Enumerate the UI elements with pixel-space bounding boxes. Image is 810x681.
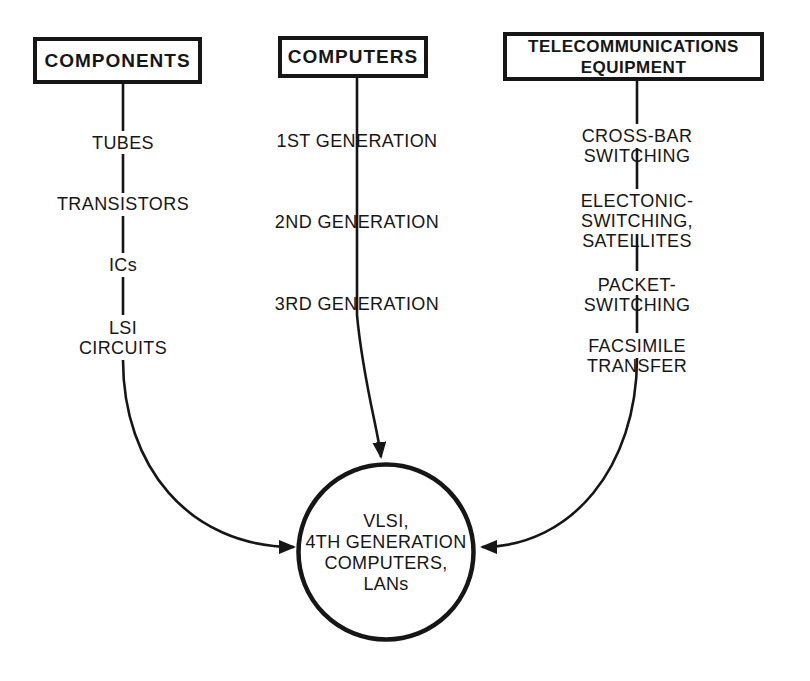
components-header-label: COMPONENTS — [44, 50, 190, 72]
item-tubes: TUBES — [92, 133, 154, 153]
telecom-header-label: TELECOMMUNICATIONS EQUIPMENT — [528, 36, 739, 78]
item-2nd-generation: 2ND GENERATION — [275, 212, 439, 232]
technology-convergence-diagram: COMPONENTS COMPUTERS TELECOMMUNICATIONS … — [0, 0, 810, 681]
telecom-arrow — [482, 358, 637, 547]
item-1st-generation: 1ST GENERATION — [277, 131, 438, 151]
item-3rd-generation: 3RD GENERATION — [275, 294, 439, 314]
telecom-header-box: TELECOMMUNICATIONS EQUIPMENT — [503, 32, 764, 81]
item-cross-bar-switching: CROSS-BAR SWITCHING — [551, 126, 724, 166]
item-ics: ICs — [109, 255, 137, 275]
computers-header-box: COMPUTERS — [278, 36, 428, 78]
item-lsi-circuits: LSI CIRCUITS — [79, 318, 167, 358]
center-circle-label: VLSI, 4TH GENERATION COMPUTERS, LANs — [306, 511, 467, 595]
item-electronic-switching-satellites: ELECTONIC-SWITCHING, SATELLITES — [551, 191, 724, 251]
components-arrow — [123, 360, 294, 547]
item-transistors: TRANSISTORS — [57, 194, 189, 214]
item-facsimile-transfer: FACSIMILE TRANSFER — [551, 336, 724, 376]
item-packet-switching: PACKET-SWITCHING — [551, 275, 724, 315]
computers-header-label: COMPUTERS — [288, 46, 418, 68]
computers-arrow — [357, 315, 381, 457]
components-header-box: COMPONENTS — [33, 37, 202, 84]
